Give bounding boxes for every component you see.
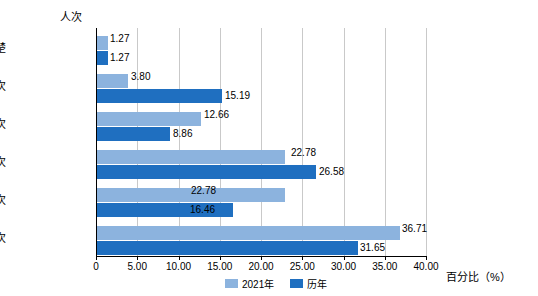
gridline xyxy=(344,28,345,256)
legend: 2021年 历年 xyxy=(225,276,337,291)
bar-value-2021-5: 36.71 xyxy=(402,223,427,234)
x-tick xyxy=(302,256,303,260)
x-tick-label: 0 xyxy=(93,261,99,272)
x-tick xyxy=(344,256,345,260)
bar-2021-1 xyxy=(97,74,128,88)
bar-2021-5 xyxy=(97,226,400,240)
gridline xyxy=(302,28,303,256)
bar-value-2021-1: 3.80 xyxy=(131,71,150,82)
y-category-label: 1001~5000人次 xyxy=(0,153,6,169)
bar-value-hist-3: 26.58 xyxy=(319,166,344,177)
legend-label-2021: 2021年 xyxy=(242,276,274,291)
legend-swatch-historical xyxy=(290,279,303,288)
bar-value-2021-3: 22.78 xyxy=(291,147,316,158)
legend-item-2021: 2021年 xyxy=(225,276,274,291)
legend-swatch-2021 xyxy=(225,279,238,288)
x-tick xyxy=(137,256,138,260)
bar-value-2021-2: 12.66 xyxy=(204,109,229,120)
y-category-label: 多于10000人次 xyxy=(0,77,6,93)
x-tick-label: 25.00 xyxy=(290,261,315,272)
gridline xyxy=(179,28,180,256)
gridline xyxy=(137,28,138,256)
gridline xyxy=(220,28,221,256)
bar-hist-0 xyxy=(97,51,108,65)
y-axis-title: 人次 xyxy=(60,8,82,24)
x-tick xyxy=(179,256,180,260)
bar-2021-2 xyxy=(97,112,201,126)
x-tick xyxy=(96,256,97,260)
bar-value-hist-1: 15.19 xyxy=(225,90,250,101)
x-tick-label: 40.00 xyxy=(413,261,438,272)
legend-label-historical: 历年 xyxy=(307,276,327,291)
x-tick xyxy=(261,256,262,260)
bar-chart: 人次 0 5.00 10.00 15.00 20.00 25.00 30.00 … xyxy=(0,0,538,296)
x-tick-label: 35.00 xyxy=(372,261,397,272)
y-category-label: 不清楚 xyxy=(0,39,6,55)
x-axis-title: 百分比（%） xyxy=(446,268,511,284)
x-tick-label: 20.00 xyxy=(248,261,273,272)
x-tick xyxy=(426,256,427,260)
gridline xyxy=(385,28,386,256)
x-tick-label: 10.00 xyxy=(166,261,191,272)
bar-value-hist-0: 1.27 xyxy=(110,52,129,63)
bar-value-hist-4: 16.46 xyxy=(190,204,215,215)
x-tick xyxy=(220,256,221,260)
bar-hist-2 xyxy=(97,127,170,141)
bar-hist-5 xyxy=(97,241,358,255)
bar-value-2021-4: 22.78 xyxy=(191,185,216,196)
x-tick xyxy=(385,256,386,260)
bar-2021-3 xyxy=(97,150,285,164)
bar-value-hist-2: 8.86 xyxy=(173,128,192,139)
y-category-label: 少于500人次 xyxy=(0,229,6,245)
bar-hist-1 xyxy=(97,89,222,103)
x-tick-label: 30.00 xyxy=(331,261,356,272)
bar-value-hist-5: 31.65 xyxy=(360,242,385,253)
gridline xyxy=(261,28,262,256)
legend-item-historical: 历年 xyxy=(290,276,327,291)
x-tick-label: 15.00 xyxy=(207,261,232,272)
x-tick-label: 5.00 xyxy=(128,261,147,272)
bar-value-2021-0: 1.27 xyxy=(110,33,129,44)
bar-2021-0 xyxy=(97,36,108,50)
bar-hist-3 xyxy=(97,165,316,179)
y-category-label: 5001~10000人次 xyxy=(0,115,6,131)
y-category-label: 500~1000人次 xyxy=(0,191,6,207)
